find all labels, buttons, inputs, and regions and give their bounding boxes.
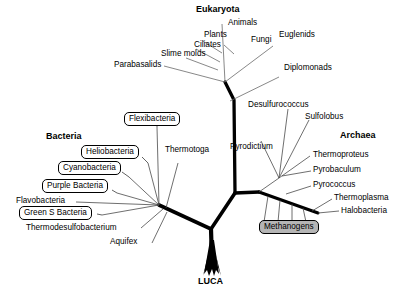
taxon-label-halobacteria: Halobacteria bbox=[341, 207, 387, 215]
branch-archaea-euryarchaeota bbox=[259, 192, 318, 213]
taxon-label-pyrococcus: Pyrococcus bbox=[313, 181, 355, 189]
branch-diplomonads bbox=[230, 77, 279, 101]
phylogenetic-tree-figure: Eukaryota Bacteria Archaea Animals Plant… bbox=[0, 0, 409, 291]
taxon-label-pyrodictium: Pyrodictium bbox=[230, 143, 273, 151]
taxon-label-heliobacteria: Heliobacteria bbox=[81, 145, 139, 159]
luca-root-flare bbox=[203, 240, 221, 276]
taxon-label-euglenids: Euglenids bbox=[279, 31, 315, 39]
leader-cyanobacteria bbox=[122, 172, 129, 177]
taxon-label-slime-molds: Slime molds bbox=[161, 50, 206, 58]
branch-to-eukaryota bbox=[225, 82, 235, 193]
root-label-luca: LUCA bbox=[198, 277, 223, 286]
branch-flexibacteria bbox=[157, 127, 159, 205]
branch-methanogens-a bbox=[264, 196, 268, 222]
domain-title-archaea: Archaea bbox=[340, 131, 376, 140]
taxon-label-ciliates: Ciliates bbox=[194, 41, 221, 49]
branch-sulfolobus bbox=[279, 120, 309, 178]
taxon-label-thermodesulfobacterium: Thermodesulfobacterium bbox=[26, 224, 117, 232]
leader-heliobacteria bbox=[142, 157, 148, 163]
branch-to-archaea bbox=[235, 192, 259, 193]
branch-desulfurococcus bbox=[279, 109, 288, 178]
leader-green-s bbox=[97, 214, 102, 215]
branch-pyrococcus bbox=[286, 186, 311, 194]
branch-parabasalids bbox=[164, 66, 225, 82]
branch-thermoplasma bbox=[312, 199, 332, 211]
branch-thermoproteus bbox=[279, 156, 310, 178]
taxon-label-fungi: Fungi bbox=[251, 36, 271, 44]
taxon-label-flavobacteria: Flavobacteria bbox=[16, 197, 65, 205]
branch-thermotoga bbox=[166, 163, 178, 208]
taxon-label-animals: Animals bbox=[228, 19, 257, 27]
taxon-label-pyrobaculum: Pyrobaculum bbox=[313, 166, 361, 174]
branch-green-s-bacteria bbox=[102, 205, 159, 215]
taxon-label-desulfurococcus: Desulfurococcus bbox=[248, 101, 309, 109]
label-leader-lines bbox=[97, 122, 286, 222]
branch-thermodesulfobacterium bbox=[141, 209, 163, 228]
taxon-label-flexibacteria: Flexibacteria bbox=[124, 112, 180, 126]
domain-title-eukaryota: Eukaryota bbox=[196, 5, 240, 14]
taxon-label-sulfolobus: Sulfolobus bbox=[305, 113, 343, 121]
branch-crenarchaeota-stem bbox=[259, 178, 279, 192]
branch-flavobacteria bbox=[76, 202, 159, 205]
taxon-label-plants: Plants bbox=[204, 31, 227, 39]
taxon-label-parabasalids: Parabasalids bbox=[114, 61, 161, 69]
taxon-label-diplomonads: Diplomonads bbox=[284, 64, 332, 72]
leader-purple-bacteria bbox=[112, 190, 117, 193]
taxon-label-purple-bacteria: Purple Bacteria bbox=[42, 179, 108, 193]
branch-slime-molds bbox=[186, 58, 218, 70]
branch-methanogens-b bbox=[278, 200, 280, 222]
branch-halobacteria bbox=[318, 211, 339, 213]
branch-fungi bbox=[224, 45, 234, 54]
taxon-label-aquifex: Aquifex bbox=[110, 238, 137, 246]
branch-euglenids bbox=[225, 46, 273, 82]
branch-heliobacteria bbox=[148, 163, 159, 205]
taxon-label-thermoplasma: Thermoplasma bbox=[334, 194, 389, 202]
taxon-label-thermoproteus: Thermoproteus bbox=[313, 151, 369, 159]
taxon-label-thermotoga: Thermotoga bbox=[165, 146, 209, 154]
taxon-label-cyanobacteria: Cyanobacteria bbox=[58, 161, 121, 175]
domain-title-bacteria: Bacteria bbox=[46, 132, 82, 141]
branch-center-to-arc-euk bbox=[211, 193, 235, 229]
taxon-label-green-s-bacteria: Green S Bacteria bbox=[19, 206, 92, 220]
taxon-label-methanogens: Methanogens bbox=[259, 220, 319, 234]
branch-pyrobaculum bbox=[282, 171, 311, 176]
branch-center-to-bacteria bbox=[159, 205, 211, 229]
